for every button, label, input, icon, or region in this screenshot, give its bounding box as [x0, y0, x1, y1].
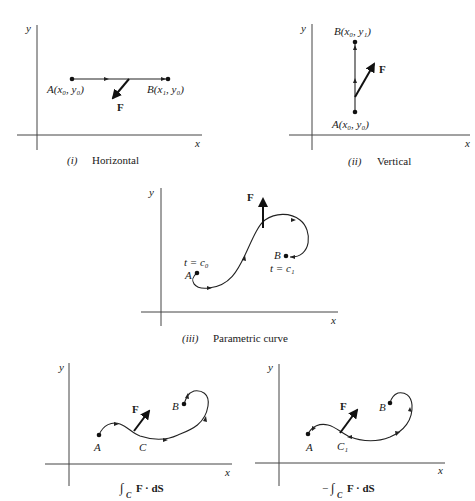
caption-number: (ii): [348, 155, 362, 168]
point-a-dot: [70, 77, 75, 82]
force-label: F: [379, 63, 386, 75]
panel-horizontal: y x A(x₀, y₀) B(x₁, y₀) F (i) Horizontal: [17, 22, 202, 167]
caption-negative-integral: − ∫ C F · dS: [322, 480, 375, 500]
point-b-label: B: [172, 400, 179, 412]
direction-arrow-icon: [291, 218, 296, 222]
panel-vertical: y x A(x₀, y₀) B(x₀, y₁) F (ii) Vertical: [289, 22, 470, 168]
curve-label: C₁: [337, 440, 348, 452]
point-a-dot: [353, 110, 358, 115]
curve-label: C: [139, 441, 147, 453]
direction-arrow-icon: [353, 45, 357, 50]
line-integral-figure: y x A(x₀, y₀) B(x₁, y₀) F (i) Horizontal…: [0, 0, 475, 501]
panel-negative-integral-c: y x A B C₁ F − ∫ C F · dS: [255, 361, 445, 500]
caption-number: (i): [67, 154, 78, 167]
point-a-dot: [306, 432, 311, 437]
force-label: F: [247, 191, 254, 203]
x-axis-label: x: [194, 137, 200, 149]
y-axis-label: y: [58, 361, 64, 373]
force-label: F: [340, 400, 347, 412]
caption-number: (iii): [182, 332, 199, 345]
point-b-dot: [166, 77, 171, 82]
point-b-label: B(x₁, y₀): [147, 83, 184, 96]
caption-text: Parametric curve: [213, 332, 288, 344]
direction-arrow-icon: [290, 255, 295, 259]
point-a-label: A: [305, 441, 313, 453]
caption-text: Horizontal: [92, 154, 139, 166]
point-b-label: B: [274, 249, 281, 261]
force-label: F: [117, 101, 124, 113]
direction-arrow-icon: [104, 77, 109, 81]
t-end-label: t = c₁: [270, 262, 295, 274]
point-a-label: A: [184, 269, 192, 281]
point-b-dot: [388, 401, 393, 406]
x-axis-label: x: [464, 137, 470, 149]
force-vector-arrow: [355, 64, 374, 97]
point-b-label: B: [379, 401, 386, 413]
direction-arrow-icon: [161, 77, 166, 81]
point-b-label: B(x₀, y₁): [334, 25, 371, 38]
integral-sign: ∫: [119, 480, 125, 496]
direction-arrow-icon: [408, 407, 412, 412]
caption-integral: ∫ C F · dS: [119, 480, 164, 500]
panel-integral-c: y x A B C F ∫ C F · dS: [45, 361, 232, 500]
x-axis-label: x: [330, 314, 336, 326]
parametric-curve-path: [193, 214, 309, 288]
y-axis-label: y: [267, 361, 273, 373]
point-a-dot: [97, 433, 102, 438]
panel-parametric-curve: y x A t = c₀ B t = c₁ F (iii) Parametric…: [141, 186, 338, 345]
direction-arrow-icon: [353, 78, 357, 83]
caption-text: Vertical: [377, 155, 411, 167]
direction-arrow-icon: [207, 286, 212, 290]
integrand: F · dS: [347, 482, 375, 494]
point-a-label: A(x₀, y₀): [46, 83, 84, 96]
force-vector-arrow: [340, 410, 357, 433]
force-vector-arrow: [113, 79, 129, 98]
minus-sign: −: [322, 482, 328, 494]
direction-arrow-icon: [185, 393, 189, 399]
point-b-dot: [353, 40, 358, 45]
integral-sign: ∫: [330, 480, 336, 496]
point-a-dot: [195, 271, 200, 276]
point-b-dot: [284, 254, 289, 259]
point-a-label: A: [93, 441, 101, 453]
force-label: F: [132, 403, 139, 415]
point-b-dot: [182, 402, 187, 407]
integral-subscript: C: [337, 491, 343, 500]
integral-subscript: C: [126, 491, 132, 500]
y-axis-label: y: [148, 186, 154, 198]
curve-c-path: [99, 391, 208, 439]
y-axis-label: y: [25, 22, 31, 34]
x-axis-label: x: [224, 466, 230, 478]
point-a-label: A(x₀, y₀): [331, 118, 369, 131]
t-start-label: t = c₀: [184, 256, 209, 268]
integrand: F · dS: [136, 482, 164, 494]
x-axis-label: x: [437, 464, 443, 476]
y-axis-label: y: [300, 22, 306, 34]
